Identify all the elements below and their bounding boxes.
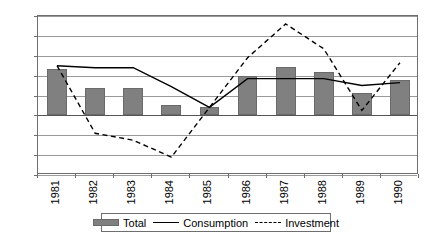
chart-legend: Total Consumption Investment [101, 213, 331, 232]
x-axis-ticks [37, 174, 418, 179]
solid-line-icon [153, 222, 179, 223]
x-tick-mark-8 [342, 174, 343, 178]
legend-item-consumption: Consumption [153, 217, 248, 229]
x-tick-mark-3 [151, 174, 152, 178]
x-tick-mark-1 [75, 174, 76, 178]
x-tick-label-1990: 1990 [393, 180, 404, 204]
legend-item-total: Total [93, 217, 146, 229]
x-tick-label-1988: 1988 [317, 180, 328, 204]
legend-label-investment: Investment [285, 217, 339, 229]
chart-container: 1086420-2-4-6 19811982198319841985198619… [0, 0, 433, 239]
legend-label-consumption: Consumption [183, 217, 248, 229]
x-tick-label-1983: 1983 [126, 180, 137, 204]
legend-item-investment: Investment [255, 217, 339, 229]
x-tick-mark-7 [304, 174, 305, 178]
x-tick-label-1985: 1985 [202, 180, 213, 204]
plot-area [37, 15, 418, 174]
x-tick-mark-5 [228, 174, 229, 178]
x-tick-mark-10 [418, 174, 419, 178]
dashed-line-icon [255, 222, 281, 223]
line-series-layer [38, 16, 419, 175]
x-tick-mark-9 [380, 174, 381, 178]
line-investment [57, 24, 400, 157]
x-tick-label-1986: 1986 [241, 180, 252, 204]
x-tick-label-1984: 1984 [164, 180, 175, 204]
legend-label-total: Total [123, 217, 146, 229]
x-tick-mark-0 [37, 174, 38, 178]
line-consumption [57, 66, 400, 108]
x-tick-label-1981: 1981 [50, 180, 61, 204]
x-tick-mark-4 [189, 174, 190, 178]
x-tick-label-1987: 1987 [279, 180, 290, 204]
x-tick-mark-2 [113, 174, 114, 178]
x-tick-label-1989: 1989 [355, 180, 366, 204]
bar-swatch-icon [93, 219, 119, 226]
x-tick-mark-6 [266, 174, 267, 178]
x-tick-label-1982: 1982 [88, 180, 99, 204]
